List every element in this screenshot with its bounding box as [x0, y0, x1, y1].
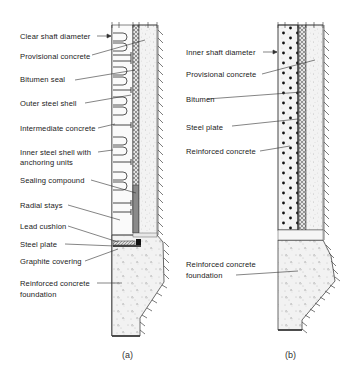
label-foundation-b-line2: foundation [186, 271, 222, 280]
label-provisional-concrete: Provisional concrete [20, 52, 90, 61]
label-provisional-concrete-b: Provisional concrete [186, 70, 256, 79]
label-steel-plate-b: Steel plate [186, 123, 223, 132]
caption-b: (b) [285, 350, 296, 360]
label-intermediate-concrete: Intermediate concrete [20, 124, 96, 133]
label-steel-plate: Steel plate [20, 240, 57, 249]
label-foundation-line2: foundation [20, 290, 56, 299]
label-inner-steel-shell: Inner steel shell with [20, 148, 91, 157]
label-reinforced-concrete: Reinforced concrete [186, 147, 256, 156]
figure-b [207, 22, 340, 333]
label-clear-shaft-diameter: Clear shaft diameter [20, 32, 90, 41]
label-sealing-compound: Sealing compound [20, 176, 85, 185]
label-anchoring-units: anchoring units [20, 158, 73, 167]
caption-a: (a) [122, 350, 133, 360]
label-bitumen-seal: Bitumen seal [20, 75, 65, 84]
label-graphite-covering: Graphite covering [20, 257, 82, 266]
label-outer-steel-shell: Outer steel shell [20, 99, 77, 108]
label-radial-stays: Radial stays [20, 201, 63, 210]
label-inner-shaft-diameter: Inner shaft diameter [186, 48, 256, 57]
label-bitumen: Bitumen [186, 95, 215, 104]
label-foundation-b-line1: Reinforced concrete [186, 260, 256, 269]
label-foundation-line1: Reinforced concrete [20, 279, 90, 288]
label-lead-cushion: Lead cushion [20, 222, 66, 231]
